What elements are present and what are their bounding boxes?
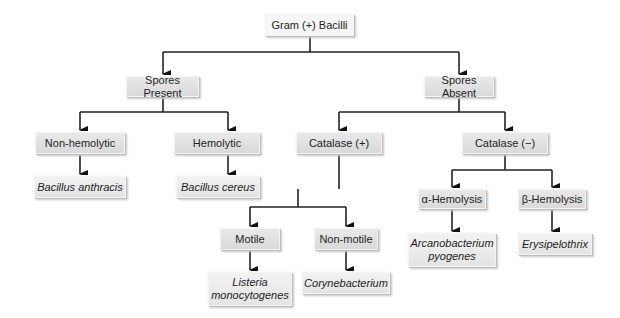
node-non-hemolytic: Non-hemolytic: [35, 132, 125, 154]
node-motile: Motile: [220, 228, 280, 250]
node-alpha-hemolysis: α-Hemolysis: [418, 189, 486, 209]
node-label: Hemolytic: [193, 137, 241, 150]
node-label: Catalase (−): [475, 137, 535, 150]
node-erysipelothrix: Erysipelothrix: [518, 233, 592, 255]
node-hemolytic: Hemolytic: [174, 132, 260, 154]
node-label: Bacillus anthracis: [37, 181, 123, 194]
node-label: β-Hemolysis: [522, 193, 583, 206]
node-spores-present: Spores Present: [126, 76, 199, 97]
node-label: α-Hemolysis: [422, 193, 483, 206]
node-listeria-monocytogenes: Listeria monocytogenes: [208, 272, 292, 306]
node-label-line1: Listeria: [232, 276, 267, 289]
node-label: Erysipelothrix: [522, 238, 588, 251]
node-label: Gram (+) Bacilli: [271, 19, 347, 32]
node-label: Catalase (+): [309, 137, 369, 150]
node-catalase-positive: Catalase (+): [296, 132, 382, 154]
node-corynebacterium: Corynebacterium: [302, 272, 390, 294]
node-non-motile: Non-motile: [314, 228, 378, 250]
connector-lines: [0, 0, 620, 318]
node-label: Non-motile: [319, 233, 372, 246]
node-label-line2: pyogenes: [428, 250, 476, 263]
node-label: Bacillus cereus: [181, 181, 255, 194]
node-bacillus-anthracis: Bacillus anthracis: [34, 176, 126, 198]
node-label: Non-hemolytic: [45, 137, 115, 150]
node-bacillus-cereus: Bacillus cereus: [176, 176, 260, 198]
node-label: Spores Absent: [425, 74, 493, 100]
node-label: Corynebacterium: [304, 277, 388, 290]
node-spores-absent: Spores Absent: [424, 76, 494, 97]
node-gram-positive-bacilli: Gram (+) Bacilli: [265, 14, 354, 36]
node-label-line2: monocytogenes: [211, 289, 289, 302]
node-arcanobacterium-pyogenes: Arcanobacterium pyogenes: [408, 233, 496, 267]
node-label: Motile: [235, 233, 264, 246]
node-catalase-negative: Catalase (−): [462, 132, 548, 154]
node-label-line1: Arcanobacterium: [410, 237, 493, 250]
node-label: Spores Present: [127, 74, 198, 100]
node-beta-hemolysis: β-Hemolysis: [518, 189, 586, 209]
